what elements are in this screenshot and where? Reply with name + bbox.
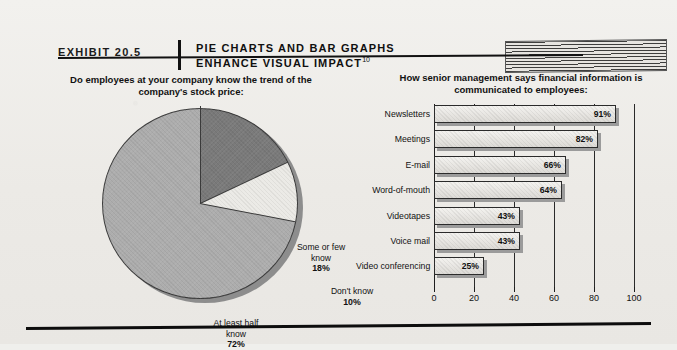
- pie-chart: Some or few know 18% Don't know 10% At l…: [99, 106, 311, 306]
- bottom-rule: [26, 322, 651, 330]
- bar-category-label: Word-of-mouth: [356, 185, 430, 195]
- xaxis-tick: [434, 287, 435, 292]
- bar-track: 82%: [434, 130, 602, 149]
- bar-value-label: 91%: [594, 109, 611, 119]
- xaxis-tick-label: 60: [549, 293, 559, 303]
- bar-track: 91%: [434, 105, 620, 124]
- xaxis-tick: [634, 287, 635, 292]
- bar-value-label: 25%: [462, 261, 479, 271]
- bar-row: Word-of-mouth64%: [356, 180, 656, 204]
- bar-category-label: Newsletters: [356, 109, 430, 119]
- bar-chart: Newsletters91%Meetings82%E-mail66%Word-o…: [356, 104, 656, 304]
- xaxis-tick-label: 80: [589, 293, 599, 303]
- bar-category-label: E-mail: [356, 160, 430, 170]
- bar-track: 25%: [434, 257, 488, 276]
- xaxis-tick: [594, 287, 595, 292]
- bar-value-label: 66%: [544, 160, 561, 170]
- bar-row: E-mail66%: [356, 155, 656, 179]
- xaxis-tick-label: 0: [431, 293, 436, 303]
- xaxis-tick-label: 40: [509, 293, 519, 303]
- bar-track: 43%: [434, 207, 524, 226]
- header-divider: [178, 40, 181, 70]
- bar-value-label: 82%: [576, 134, 593, 144]
- bar-row: Newsletters91%: [356, 104, 656, 128]
- bar-row: Videotapes43%: [356, 206, 656, 230]
- bar-track: 64%: [434, 181, 566, 200]
- pie-label-some-value: 18%: [312, 263, 330, 273]
- bar-fill[interactable]: 64%: [434, 181, 562, 199]
- bar-track: 43%: [434, 232, 524, 251]
- pie-label-some-or-few-know: Some or few know 18%: [291, 242, 351, 274]
- bar-category-label: Meetings: [356, 134, 430, 144]
- pie-chart-title: Do employees at your company know the tr…: [66, 74, 316, 97]
- bar-category-label: Video conferencing: [356, 261, 430, 271]
- bar-chart-title: How senior management says financial inf…: [390, 72, 652, 95]
- pie-separator-start: [200, 106, 201, 203]
- pie-label-half-value: 72%: [227, 339, 245, 349]
- bar-row: Meetings82%: [356, 129, 656, 153]
- xaxis-tick: [554, 287, 555, 292]
- exhibit-title-line-1: PIE CHARTS AND BAR GRAPHS: [196, 42, 395, 54]
- bar-value-label: 64%: [540, 185, 557, 195]
- bar-fill[interactable]: 91%: [434, 105, 616, 123]
- bar-category-label: Voice mail: [356, 236, 430, 246]
- bar-track: 66%: [434, 156, 570, 175]
- bar-value-label: 43%: [498, 236, 515, 246]
- bar-fill[interactable]: 82%: [434, 130, 598, 148]
- bar-fill[interactable]: 25%: [434, 257, 484, 275]
- xaxis-tick-label: 20: [469, 293, 479, 303]
- bar-fill[interactable]: 66%: [434, 156, 566, 174]
- xaxis-tick: [514, 287, 515, 292]
- bar-fill[interactable]: 43%: [434, 207, 520, 225]
- bar-row: Video conferencing25%: [356, 256, 656, 280]
- bar-value-label: 43%: [498, 211, 515, 221]
- pie-label-some-text: Some or few know: [297, 242, 345, 263]
- bar-fill[interactable]: 43%: [434, 232, 520, 250]
- bar-row: Voice mail43%: [356, 231, 656, 255]
- exhibit-title-line-2: ENHANCE VISUAL IMPACT: [196, 57, 362, 69]
- bar-category-label: Videotapes: [356, 211, 430, 221]
- xaxis-tick: [474, 287, 475, 292]
- pie-label-at-least-half-know: At least half know 72%: [207, 318, 265, 350]
- xaxis-tick-label: 100: [626, 293, 641, 303]
